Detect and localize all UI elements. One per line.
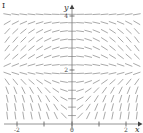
slope-segment	[12, 64, 19, 67]
slope-segment	[14, 87, 17, 93]
slope-segment	[29, 37, 34, 41]
slope-segment	[93, 30, 100, 33]
slope-segment	[109, 14, 116, 15]
slope-segment	[77, 23, 84, 24]
slope-segment	[7, 112, 8, 119]
slope-segment	[93, 38, 99, 41]
slope-segment	[77, 81, 84, 82]
slope-segment	[101, 64, 108, 66]
slope-segment	[60, 81, 67, 82]
x-axis-tick-label: 2	[124, 126, 128, 133]
slope-segment	[53, 81, 60, 83]
slope-segment	[36, 55, 42, 58]
x-axis-tick-labels: -202	[14, 126, 128, 133]
x-axis-label: x	[135, 125, 140, 133]
slope-segment	[20, 64, 27, 66]
slope-segment	[28, 73, 35, 74]
slope-segment	[112, 104, 114, 111]
slope-segment	[20, 72, 27, 74]
slope-segment	[101, 22, 108, 24]
slope-segment	[93, 73, 100, 74]
slope-segment	[60, 48, 67, 49]
slope-segment	[93, 47, 99, 50]
slope-segment	[95, 112, 97, 119]
y-axis-tick-label: 2	[64, 66, 68, 73]
slope-segment	[77, 105, 83, 109]
slope-segment	[135, 37, 139, 43]
slope-segment	[102, 80, 108, 84]
slope-segment	[136, 95, 138, 102]
slope-segment	[13, 79, 17, 84]
slope-segment	[5, 29, 10, 34]
slope-segment	[5, 45, 9, 51]
x-axis-tick-label: -2	[14, 126, 20, 133]
slope-segment	[36, 64, 43, 66]
slope-segment	[77, 89, 84, 91]
slope-segment	[44, 30, 51, 33]
slope-segment	[102, 87, 106, 93]
slope-segment	[60, 39, 67, 40]
slope-segment	[117, 72, 124, 74]
slope-segment	[52, 56, 59, 58]
slope-segment	[93, 80, 99, 83]
slope-segment	[110, 46, 115, 50]
slope-segment	[38, 87, 42, 93]
slope-segment	[125, 14, 132, 15]
slope-segment	[15, 104, 16, 111]
slope-segment	[52, 65, 59, 66]
slope-segment	[6, 87, 8, 94]
slope-segment	[22, 87, 25, 93]
slope-segment	[29, 29, 35, 33]
slope-segment	[111, 87, 115, 93]
slope-segment	[120, 95, 122, 102]
slope-segment	[134, 29, 139, 34]
slope-segment	[101, 73, 108, 74]
slope-segment	[118, 29, 123, 33]
slope-segment	[38, 96, 41, 102]
slope-segment	[86, 96, 91, 101]
slope-segment	[61, 105, 67, 109]
slope-segment	[44, 64, 51, 65]
slope-segment	[46, 96, 50, 102]
slope-segment	[52, 22, 59, 23]
slope-segment	[13, 45, 18, 50]
slope-segment	[110, 80, 115, 85]
slope-segment	[60, 56, 67, 57]
slope-segment	[44, 55, 51, 57]
slope-segment	[12, 14, 19, 15]
slope-segment	[5, 79, 9, 85]
slope-segment	[54, 112, 57, 118]
slope-segment	[134, 64, 140, 67]
slope-segment	[28, 64, 35, 66]
slope-segment	[135, 45, 139, 51]
slope-segment	[109, 73, 116, 74]
slope-segment	[126, 45, 131, 50]
slope-segment	[127, 87, 130, 93]
slope-segment	[52, 73, 59, 74]
slope-field-plot: x y -202 24	[0, 0, 143, 133]
slope-segment	[23, 104, 24, 111]
y-axis-arrowhead	[70, 4, 75, 9]
slope-segment	[15, 112, 16, 119]
slope-segment	[101, 14, 108, 15]
slope-segment	[126, 29, 131, 34]
slope-segment	[5, 37, 9, 43]
slope-segment	[29, 55, 35, 59]
slope-segment	[29, 80, 34, 85]
slope-segment	[29, 46, 34, 50]
slope-segment	[61, 89, 68, 91]
slope-segment	[52, 39, 59, 41]
slope-segment	[60, 23, 67, 24]
slope-segment	[44, 22, 51, 23]
slope-segment	[21, 37, 26, 42]
slope-segment	[134, 72, 141, 74]
slope-segment	[111, 95, 113, 102]
slope-segment	[133, 14, 140, 15]
slope-segment	[110, 37, 115, 41]
slope-segment	[94, 96, 98, 102]
slope-segment	[39, 104, 41, 111]
slope-segment	[4, 72, 11, 74]
slope-segment	[136, 87, 138, 94]
slope-segment	[14, 95, 16, 102]
slope-segment	[30, 87, 34, 93]
